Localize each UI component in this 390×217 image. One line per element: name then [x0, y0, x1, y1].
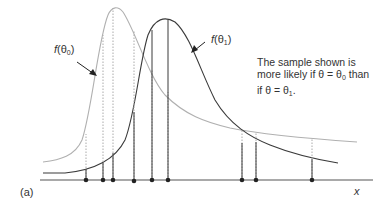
x-axis-label: x — [354, 185, 360, 197]
arrow-theta1 — [191, 42, 205, 53]
density-plot — [0, 0, 390, 217]
panel-label: (a) — [20, 186, 33, 198]
likelihood-figure: f(θ0) f(θ1) The sample shown is more lik… — [0, 0, 390, 217]
label-f-theta0: f(θ0) — [54, 43, 74, 56]
label-f-theta1: f(θ1) — [211, 33, 231, 46]
arrow-theta0 — [77, 62, 97, 76]
annotation-text: The sample shown is more likely if θ = θ… — [257, 56, 387, 100]
